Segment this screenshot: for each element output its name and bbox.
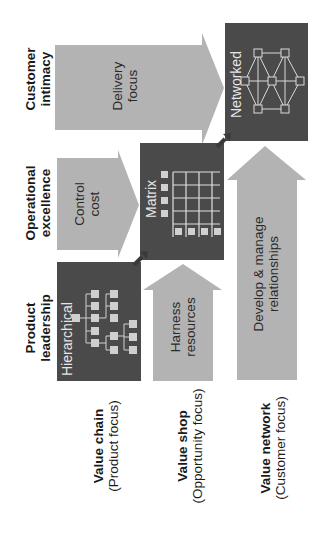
strategy-line2: excellence xyxy=(39,159,54,247)
networked-label: Networked xyxy=(229,51,244,118)
arrow-text-line1: Delivery xyxy=(111,54,126,118)
harness-resources-label: Harness resources xyxy=(169,292,199,362)
strategy-line1: Customer xyxy=(24,46,39,112)
strategy-label-operational-excellence: Operational excellence xyxy=(24,159,54,247)
value-config-value-chain: Value chain (Product focus) xyxy=(92,398,122,494)
value-config-subtitle: (Product focus) xyxy=(107,398,122,494)
value-config-value-network: Value network (Customer focus) xyxy=(259,394,289,502)
arrow-text-line2: cost xyxy=(88,176,103,232)
control-cost-label: Control cost xyxy=(73,176,103,232)
value-config-title: Value network xyxy=(259,394,274,502)
value-config-subtitle: (Opportunity focus) xyxy=(191,386,206,506)
arrow-text-line1: Develop & manage xyxy=(252,212,267,336)
arrow-text-line2: resources xyxy=(184,292,199,362)
strategy-label-product-leadership: Product leadership xyxy=(24,288,54,368)
matrix-label: Matrix xyxy=(144,180,159,218)
strategy-line1: Operational xyxy=(24,159,39,247)
strategy-line1: Product xyxy=(24,288,39,368)
arrow-text-line2: focus xyxy=(126,54,141,118)
strategy-line2: leadership xyxy=(39,288,54,368)
strategy-line2: intimacy xyxy=(39,46,54,112)
delivery-focus-label: Delivery focus xyxy=(111,54,141,118)
value-config-value-shop: Value shop (Opportunity focus) xyxy=(176,386,206,506)
value-config-subtitle: (Customer focus) xyxy=(274,394,289,502)
arrow-text-line1: Harness xyxy=(169,292,184,362)
value-config-title: Value chain xyxy=(92,398,107,494)
strategy-label-customer-intimacy: Customer intimacy xyxy=(24,46,54,112)
value-configuration-diagram: Customer intimacy Operational excellence… xyxy=(0,0,325,560)
hierarchical-label: Hierarchical xyxy=(60,302,75,376)
arrow-text-line2: relationships xyxy=(267,212,282,336)
value-config-title: Value shop xyxy=(176,386,191,506)
arrow-text-line1: Control xyxy=(73,176,88,232)
develop-relationships-label: Develop & manage relationships xyxy=(252,212,282,336)
